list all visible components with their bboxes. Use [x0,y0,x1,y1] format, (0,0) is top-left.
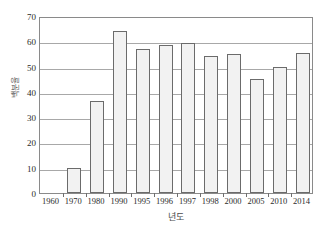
bar-slot [109,18,132,193]
y-tick-label: 30 [16,114,36,123]
x-axis-title: 년도 [39,210,313,223]
bar[interactable] [296,53,310,193]
x-axis-tick-labels: 1960197019801990199519961997199820002005… [39,197,313,209]
bar[interactable] [204,56,218,193]
bar-series [40,18,312,193]
y-tick-label: 50 [16,63,36,72]
bar-slot [268,18,291,193]
bar-slot [63,18,86,193]
bar-slot [177,18,200,193]
y-tick-label: 70 [16,13,36,22]
bar-chart: 백분율 010203040506070 19601970198019901995… [0,0,324,234]
bar-slot [86,18,109,193]
bar[interactable] [250,79,264,193]
bar-slot [223,18,246,193]
bar[interactable] [273,67,287,193]
bar[interactable] [227,54,241,193]
bar-slot [246,18,269,193]
bar[interactable] [136,49,150,193]
bar-slot [131,18,154,193]
bar[interactable] [67,168,81,193]
y-tick-label: 20 [16,139,36,148]
bar-slot [200,18,223,193]
plot-area [39,17,313,194]
bar-slot [154,18,177,193]
bar[interactable] [181,43,195,193]
y-tick-label: 40 [16,88,36,97]
bar-slot [291,18,314,193]
x-tick-label: 2014 [282,197,322,206]
bar[interactable] [113,31,127,193]
bar[interactable] [90,101,104,193]
bar-slot [40,18,63,193]
bar[interactable] [159,45,173,193]
y-tick-label: 60 [16,38,36,47]
y-tick-label: 10 [16,164,36,173]
y-axis-tick-labels: 010203040506070 [16,17,36,194]
